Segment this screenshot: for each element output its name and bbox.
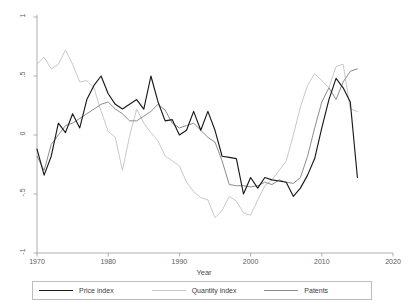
x-axis-tick-label: 2000 bbox=[236, 258, 266, 265]
y-axis-tick-label: 0 bbox=[19, 124, 26, 144]
legend-item[interactable]: Patents bbox=[258, 287, 371, 294]
legend-item[interactable]: Price index bbox=[33, 287, 146, 294]
series-line-price-index bbox=[37, 76, 357, 196]
line-chart: 1.50-.5-1 197019801990200020102020 Year … bbox=[0, 0, 408, 305]
y-axis-tick-label: -.5 bbox=[19, 183, 26, 203]
y-axis-tick-label: .5 bbox=[19, 65, 26, 85]
legend-label: Patents bbox=[304, 287, 328, 294]
x-axis-tick-label: 2020 bbox=[378, 258, 408, 265]
x-axis-tick-label: 1970 bbox=[22, 258, 52, 265]
x-axis-title: Year bbox=[0, 268, 408, 277]
legend-label: Price index bbox=[79, 287, 114, 294]
x-axis-tick-label: 2010 bbox=[307, 258, 337, 265]
legend-swatch-icon bbox=[264, 290, 298, 291]
y-axis-tick-label: 1 bbox=[19, 6, 26, 26]
plot-area bbox=[0, 0, 408, 305]
legend-label: Quantity index bbox=[192, 287, 237, 294]
legend-item[interactable]: Quantity index bbox=[146, 287, 259, 294]
series-line-patents bbox=[37, 69, 357, 187]
legend-swatch-icon bbox=[39, 290, 73, 291]
legend-swatch-icon bbox=[152, 290, 186, 291]
chart-legend: Price indexQuantity indexPatents bbox=[32, 281, 372, 300]
series-line-quantity-index bbox=[37, 50, 357, 218]
x-axis-tick-label: 1980 bbox=[93, 258, 123, 265]
x-axis-tick-label: 1990 bbox=[164, 258, 194, 265]
